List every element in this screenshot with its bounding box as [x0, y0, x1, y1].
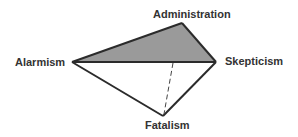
diagram-canvas: [0, 0, 298, 137]
label-administration: Administration: [153, 9, 231, 20]
edge-skepticism-fatalism: [163, 62, 216, 116]
label-alarmism: Alarmism: [15, 57, 65, 68]
label-skepticism: Skepticism: [225, 56, 283, 67]
label-fatalism: Fatalism: [145, 120, 190, 131]
shaded-triangle: [72, 23, 216, 62]
edge-alarmism-fatalism: [72, 62, 163, 116]
